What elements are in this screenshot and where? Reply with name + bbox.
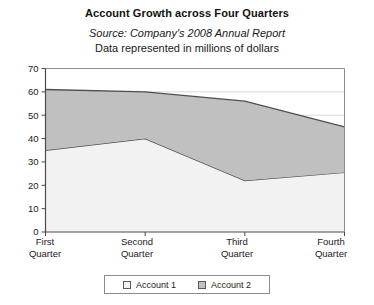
legend-item-account-1: Account 1 (123, 280, 176, 290)
x-label-q1-line2: Quarter (2, 248, 88, 260)
y-tick-label-10: 10 (28, 203, 39, 214)
legend-label-account-1: Account 1 (136, 280, 176, 290)
legend-swatch-account-1 (123, 281, 131, 289)
x-label-q3-line2: Quarter (194, 248, 280, 260)
y-tick-label-50: 50 (28, 110, 39, 121)
y-axis-ticks: 010203040506070 (28, 63, 46, 238)
x-label-q2: Second Quarter (94, 236, 180, 260)
legend-swatch-account-2 (198, 281, 206, 289)
x-label-q2-line2: Quarter (94, 248, 180, 260)
y-tick-label-70: 70 (28, 63, 39, 74)
x-label-q2-line1: Second (94, 236, 180, 248)
legend-label-account-2: Account 2 (211, 280, 251, 290)
y-tick-label-60: 60 (28, 86, 39, 97)
x-axis-labels: First Quarter Second Quarter Third Quart… (0, 236, 374, 270)
chart-legend: Account 1 Account 2 (104, 275, 270, 294)
legend-item-account-2: Account 2 (198, 280, 251, 290)
y-tick-label-30: 30 (28, 156, 39, 167)
x-label-q4-line1: Fourth (288, 236, 374, 248)
y-tick-label-20: 20 (28, 180, 39, 191)
x-label-q3-line1: Third (194, 236, 280, 248)
chart-figure: Account Growth across Four Quarters Sour… (0, 0, 374, 305)
x-label-q3: Third Quarter (194, 236, 280, 260)
x-label-q4-line2: Quarter (288, 248, 374, 260)
x-label-q1: First Quarter (2, 236, 88, 260)
y-tick-label-40: 40 (28, 133, 39, 144)
x-label-q1-line1: First (2, 236, 88, 248)
x-label-q4: Fourth Quarter (288, 236, 374, 260)
